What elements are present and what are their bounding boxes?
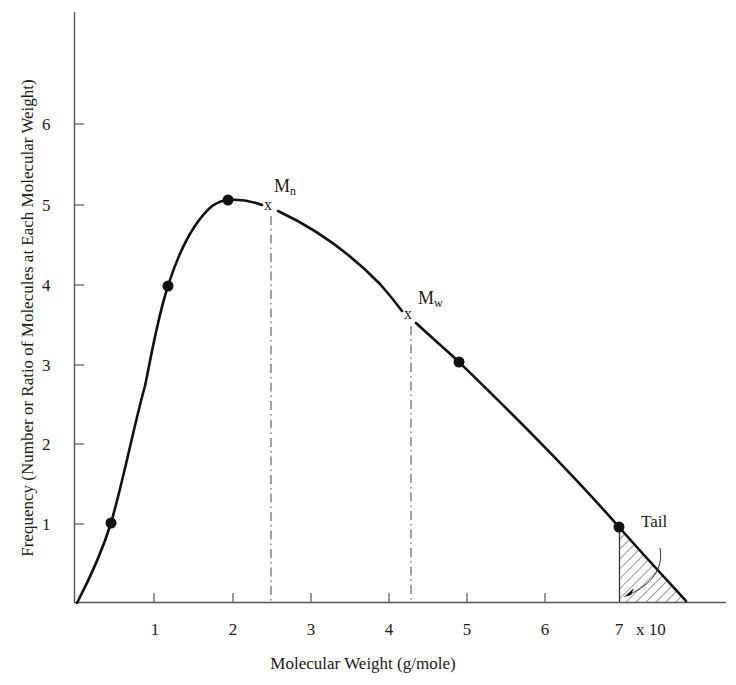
x-scale-suffix: x 10 <box>636 621 666 638</box>
mw-label: Mw <box>418 288 443 311</box>
x-tick-label: 4 <box>385 621 394 638</box>
tail-label: Tail <box>641 512 667 532</box>
data-point <box>454 357 465 368</box>
y-tick-label: 5 <box>42 197 51 214</box>
x-tick-label: 5 <box>463 621 472 638</box>
distribution-curve <box>77 200 686 603</box>
mw-label-main: M <box>418 288 434 308</box>
x-axis-title: Molecular Weight (g/mole) <box>270 654 455 674</box>
mw-marker: x <box>404 305 412 323</box>
data-point <box>614 522 625 533</box>
chart-canvas <box>0 0 736 685</box>
mn-marker: x <box>264 196 272 214</box>
x-tick-label: 7 <box>615 621 624 638</box>
data-point <box>223 195 234 206</box>
mn-label-main: M <box>274 176 290 196</box>
mw-label-sub: w <box>434 296 443 310</box>
x-tick-label: 2 <box>229 621 238 638</box>
y-tick-label: 6 <box>42 116 51 133</box>
y-axis-title: Frequency (Number or Ratio of Molecules … <box>18 79 38 556</box>
data-point <box>106 518 117 529</box>
mn-label-sub: n <box>290 184 296 198</box>
x-ticks <box>154 593 545 602</box>
y-tick-label: 4 <box>42 277 51 294</box>
x-tick-label: 6 <box>541 621 550 638</box>
y-ticks <box>75 124 84 524</box>
y-tick-label: 3 <box>42 357 51 374</box>
data-point <box>163 281 174 292</box>
mn-label: Mn <box>274 176 296 199</box>
x-tick-label: 3 <box>307 621 316 638</box>
y-tick-label: 2 <box>42 436 51 453</box>
x-tick-label: 1 <box>151 621 160 638</box>
y-tick-label: 1 <box>42 516 51 533</box>
